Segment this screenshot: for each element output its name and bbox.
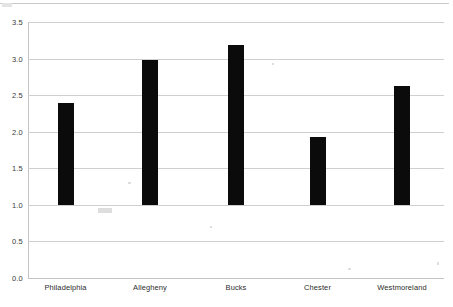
chart-plot-area: 0.00.51.01.52.02.53.03.5 bbox=[28, 22, 444, 278]
y-tick-label: 0.0 bbox=[12, 274, 23, 283]
bar-chester bbox=[310, 137, 326, 205]
y-tick-label: 2.0 bbox=[12, 127, 23, 136]
y-tick-label: 2.5 bbox=[12, 91, 23, 100]
y-tick-label: 1.5 bbox=[12, 164, 23, 173]
y-tick-label: 1.0 bbox=[12, 200, 23, 209]
bar-westmoreland bbox=[394, 86, 410, 204]
x-label-philadelphia: Philadelphia bbox=[44, 283, 86, 292]
x-label-westmoreland: Westmoreland bbox=[377, 283, 426, 292]
x-label-allegheny: Allegheny bbox=[133, 283, 167, 292]
x-label-chester: Chester bbox=[304, 283, 331, 292]
gridline-3.5 bbox=[28, 22, 444, 23]
x-label-bucks: Bucks bbox=[226, 283, 247, 292]
x-axis-category-labels: PhiladelphiaAlleghenyBucksChesterWestmor… bbox=[28, 283, 444, 299]
gridline-0.0 bbox=[28, 278, 444, 279]
bar-bucks bbox=[228, 45, 244, 205]
gridline-0.5 bbox=[28, 241, 444, 242]
scan-smudge bbox=[2, 3, 12, 7]
bar-allegheny bbox=[142, 60, 158, 205]
gridline-1.0 bbox=[28, 205, 444, 206]
bar-philadelphia bbox=[58, 103, 74, 205]
y-tick-label: 3.5 bbox=[12, 18, 23, 27]
page-top-rule bbox=[0, 3, 449, 4]
y-tick-label: 3.0 bbox=[12, 54, 23, 63]
y-tick-label: 0.5 bbox=[12, 237, 23, 246]
